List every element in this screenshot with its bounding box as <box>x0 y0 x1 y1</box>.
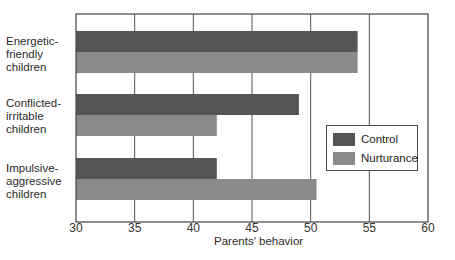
legend-label-control: Control <box>361 133 398 145</box>
x-tick-label: 50 <box>304 221 318 235</box>
x-tick-label: 30 <box>69 221 83 235</box>
x-tick-label: 60 <box>421 221 435 235</box>
x-tick-label: 35 <box>128 221 142 235</box>
bar-control <box>76 31 358 52</box>
category-label: Conflicted-irritablechildren <box>6 97 72 136</box>
legend-swatch-control <box>333 133 355 146</box>
bar-control <box>76 94 299 115</box>
legend-item-control: Control <box>333 132 398 146</box>
x-axis-title: Parents' behavior <box>214 235 303 247</box>
x-tick-label: 45 <box>245 221 259 235</box>
x-tick-label: 40 <box>187 221 201 235</box>
legend-item-nurturance: Nurturance <box>333 151 418 165</box>
category-label: Energetic-friendlychildren <box>6 35 72 74</box>
x-tick-label: 55 <box>363 221 377 235</box>
category-label: Impulsive-aggressivechildren <box>6 162 72 201</box>
legend-label-nurturance: Nurturance <box>361 152 418 164</box>
legend: Control Nurturance <box>326 125 418 171</box>
x-axis-ticks: 30354045505560 <box>69 221 435 235</box>
bar-nurturance <box>76 179 317 200</box>
bar-nurturance <box>76 115 217 136</box>
legend-swatch-nurturance <box>333 152 355 165</box>
bar-control <box>76 158 217 179</box>
bars <box>76 31 358 200</box>
bar-nurturance <box>76 52 358 73</box>
